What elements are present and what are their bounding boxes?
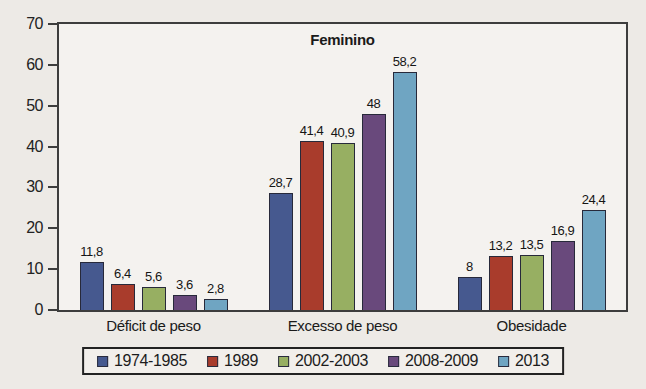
bar-wrap: 40,9 <box>331 125 355 310</box>
legend-swatch <box>278 356 289 367</box>
bar <box>80 262 104 310</box>
y-tick-label: 30 <box>7 178 43 196</box>
category-label: Excesso de peso <box>288 317 398 334</box>
legend-item: 2008-2009 <box>388 352 478 370</box>
bar-groups: 11,86,45,63,62,8Déficit de peso28,741,44… <box>59 24 626 310</box>
legend-label: 1989 <box>224 352 258 370</box>
category-label: Obesidade <box>497 317 567 334</box>
y-tick-mark <box>48 146 58 148</box>
bar-wrap: 24,4 <box>582 192 606 310</box>
chart: Feminino 010203040506070 11,86,45,63,62,… <box>0 0 646 389</box>
legend-item: 1974-1985 <box>97 352 187 370</box>
y-tick-label: 0 <box>7 301 43 319</box>
bar <box>489 256 513 310</box>
category-label: Déficit de peso <box>106 317 201 334</box>
bar-value-label: 48 <box>367 96 381 111</box>
bar-value-label: 40,9 <box>331 125 355 140</box>
y-tick-mark <box>48 105 58 107</box>
bar <box>142 287 166 310</box>
bar-group: 11,86,45,63,62,8Déficit de peso <box>80 244 228 310</box>
y-tick-mark <box>48 23 58 25</box>
legend-label: 1974-1985 <box>114 352 187 370</box>
y-tick-label: 50 <box>7 97 43 115</box>
bar-value-label: 28,7 <box>269 175 293 190</box>
bar-wrap: 41,4 <box>300 123 324 310</box>
legend-label: 2002-2003 <box>295 352 368 370</box>
bar-group: 813,213,516,924,4Obesidade <box>458 192 606 310</box>
bar-value-label: 2,8 <box>207 281 224 296</box>
legend-swatch <box>97 356 108 367</box>
bar-value-label: 8 <box>466 259 473 274</box>
bar <box>393 72 417 310</box>
y-tick-label: 40 <box>7 138 43 156</box>
y-tick-mark <box>48 227 58 229</box>
legend-item: 2013 <box>498 352 549 370</box>
bar-value-label: 58,2 <box>393 54 417 69</box>
bar <box>520 255 544 310</box>
bar-value-label: 3,6 <box>176 277 193 292</box>
legend-label: 2013 <box>515 352 549 370</box>
bar-value-label: 6,4 <box>114 266 131 281</box>
legend-swatch <box>207 356 218 367</box>
bar <box>582 210 606 310</box>
bar-wrap: 13,5 <box>520 237 544 310</box>
legend-swatch <box>388 356 399 367</box>
bar-wrap: 11,8 <box>80 244 104 310</box>
y-tick-label: 20 <box>7 219 43 237</box>
bar-wrap: 6,4 <box>111 266 135 310</box>
bar-value-label: 13,5 <box>520 237 544 252</box>
bar-value-label: 13,2 <box>489 238 513 253</box>
bar-wrap: 28,7 <box>269 175 293 310</box>
y-tick-label: 10 <box>7 260 43 278</box>
y-tick-mark <box>48 268 58 270</box>
bar-group: 28,741,440,94858,2Excesso de peso <box>269 54 417 310</box>
bar <box>458 277 482 310</box>
legend-swatch <box>498 356 509 367</box>
plot-area: Feminino 010203040506070 11,86,45,63,62,… <box>57 22 628 312</box>
bar <box>204 299 228 310</box>
bar-wrap: 8 <box>458 259 482 310</box>
bar <box>551 241 575 310</box>
bar-wrap: 13,2 <box>489 238 513 310</box>
y-tick-mark <box>48 64 58 66</box>
bar-wrap: 58,2 <box>393 54 417 310</box>
bar <box>111 284 135 310</box>
bar-value-label: 24,4 <box>582 192 606 207</box>
legend-label: 2008-2009 <box>405 352 478 370</box>
legend: 1974-198519892002-20032008-20092013 <box>82 347 564 375</box>
bar <box>173 295 197 310</box>
legend-item: 2002-2003 <box>278 352 368 370</box>
bar-value-label: 11,8 <box>80 244 103 259</box>
bar-value-label: 16,9 <box>551 223 575 238</box>
bar <box>300 141 324 310</box>
bar-wrap: 5,6 <box>142 269 166 310</box>
bar-value-label: 5,6 <box>145 269 162 284</box>
y-tick-mark <box>48 186 58 188</box>
y-tick-label: 70 <box>7 15 43 33</box>
y-tick-label: 60 <box>7 56 43 74</box>
bar-wrap: 16,9 <box>551 223 575 310</box>
bar <box>331 143 355 310</box>
bar-wrap: 48 <box>362 96 386 310</box>
bar <box>269 193 293 310</box>
bar-wrap: 3,6 <box>173 277 197 310</box>
bar-value-label: 41,4 <box>300 123 324 138</box>
y-tick-mark <box>48 309 58 311</box>
legend-item: 1989 <box>207 352 258 370</box>
bar-wrap: 2,8 <box>204 281 228 310</box>
bar <box>362 114 386 310</box>
